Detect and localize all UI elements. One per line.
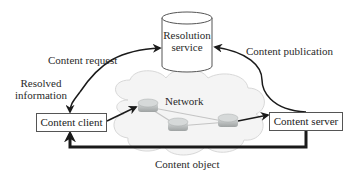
cloud-icon [114, 69, 264, 155]
network-label: Network [165, 95, 204, 107]
content-network-diagram: Resolution service Content request Resol… [0, 0, 362, 179]
resolved-information-line1: Resolved [12, 77, 70, 89]
resolution-service-label: Resolution service [162, 29, 212, 53]
resolved-information-label: Resolved information [12, 77, 70, 101]
resolution-service-line1: Resolution [162, 29, 212, 41]
content-server-node: Content server [269, 112, 343, 131]
router-icon [138, 99, 158, 112]
content-publication-label: Content publication [246, 45, 333, 57]
resolved-information-line2: information [12, 89, 70, 101]
content-object-label: Content object [155, 158, 219, 170]
resolution-service-line2: service [162, 41, 212, 53]
router-icon [168, 118, 188, 131]
content-client-node: Content client [36, 113, 107, 132]
resolved-information-arrow [70, 92, 80, 112]
content-request-label: Content request [48, 54, 117, 66]
router-icon [218, 114, 238, 127]
